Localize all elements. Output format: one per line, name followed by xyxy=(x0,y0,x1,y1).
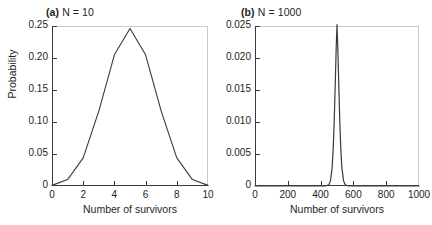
y-tick-label: 0.25 xyxy=(0,19,48,30)
figure-binomial-distributions: (a) N = 10 Probability Number of survivo… xyxy=(0,0,432,225)
panel-a-data-curve xyxy=(52,26,208,186)
panel-a-label-text: N = 10 xyxy=(62,6,94,18)
panel-a-title: (a) N = 10 xyxy=(46,6,94,18)
panel-a-y-axis-title: Probability xyxy=(6,36,18,112)
y-tick-label: 0.20 xyxy=(0,51,48,62)
x-tick xyxy=(177,181,178,186)
panel-b-label-text: N = 1000 xyxy=(258,6,302,18)
y-tick-label: 0.015 xyxy=(216,83,251,94)
y-tick-label: 0.010 xyxy=(216,115,251,126)
y-tick-label: 0.005 xyxy=(216,147,251,158)
panel-a-x-axis-title: Number of survivors xyxy=(52,203,208,215)
panel-a-y-tick xyxy=(52,90,57,91)
panel-b-x-axis-title: Number of survivors xyxy=(255,203,419,215)
x-tick xyxy=(321,181,322,186)
panel-a-y-tick xyxy=(52,154,57,155)
panel-a-y-tick xyxy=(52,58,57,59)
panel-b-y-tick xyxy=(255,58,260,59)
x-tick xyxy=(288,181,289,186)
y-tick-label: 0.15 xyxy=(0,83,48,94)
panel-b-y-tick xyxy=(255,26,260,27)
panel-b-title: (b) N = 1000 xyxy=(241,6,301,18)
panel-b-label-prefix: (b) xyxy=(241,6,255,18)
panel-b-y-tick xyxy=(255,122,260,123)
panel-b-y-tick xyxy=(255,154,260,155)
y-tick-label: 0.020 xyxy=(216,51,251,62)
panel-b: (b) N = 1000 Number of survivors 00.0050… xyxy=(216,0,432,225)
y-tick-label: 0.10 xyxy=(0,115,48,126)
y-tick-label: 0.025 xyxy=(216,19,251,30)
x-tick xyxy=(83,181,84,186)
panel-a: (a) N = 10 Probability Number of survivo… xyxy=(0,0,216,225)
x-tick xyxy=(386,181,387,186)
x-tick xyxy=(146,181,147,186)
panel-b-data-curve xyxy=(255,26,419,186)
panel-b-y-tick xyxy=(255,90,260,91)
panel-a-y-tick xyxy=(52,26,57,27)
x-tick xyxy=(353,181,354,186)
x-tick xyxy=(114,181,115,186)
x-tick-label: 1000 xyxy=(394,189,432,200)
panel-a-label-prefix: (a) xyxy=(46,6,59,18)
y-tick-label: 0.05 xyxy=(0,147,48,158)
panel-b-plot-area xyxy=(255,26,419,186)
panel-a-y-tick xyxy=(52,122,57,123)
panel-a-plot-area xyxy=(52,26,208,186)
